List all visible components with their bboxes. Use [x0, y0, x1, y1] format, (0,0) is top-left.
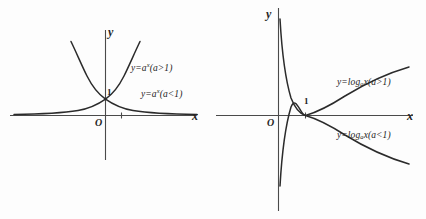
eq-function: log [348, 77, 360, 87]
y-axis-label: y [266, 8, 271, 20]
eq-condition: (a<1) [160, 89, 183, 99]
curve-label-logarithm-growth: y=logax(a>1) [337, 78, 391, 88]
y-intercept-tick-label: 1 [107, 88, 112, 97]
x-intercept-tick-label: 1 [304, 97, 309, 106]
origin-label: O [95, 118, 102, 128]
curve-label-exponential-decay: y=ax(a<1) [141, 88, 182, 100]
math-figure: y x 1 O y=ax(a>1) y=ax(a<1) y x 1 O [0, 0, 426, 219]
curve-exponential-decay [71, 42, 197, 115]
eq-prefix: y= [337, 77, 348, 87]
curve-label-logarithm-decay: y=logax(a<1) [337, 131, 391, 141]
eq-condition: (a>1) [368, 77, 391, 87]
exponential-plot-svg [0, 0, 213, 219]
y-axis-label: y [108, 26, 113, 38]
x-axis-label: x [407, 110, 413, 122]
eq-function: log [348, 130, 360, 140]
curve-exponential-growth [14, 42, 140, 115]
eq-condition: (a>1) [150, 63, 173, 73]
exponential-graph-panel: y x 1 O y=ax(a>1) y=ax(a<1) [0, 0, 213, 219]
logarithmic-plot-svg [213, 0, 426, 219]
logarithmic-graph-panel: y x 1 O y=logax(a>1) y=logax(a<1) [213, 0, 426, 219]
curve-label-exponential-growth: y=ax(a>1) [131, 62, 172, 74]
origin-label: O [267, 118, 274, 128]
eq-condition: (a<1) [368, 130, 391, 140]
curve-logarithm-growth [280, 19, 409, 164]
eq-prefix: y= [337, 130, 348, 140]
eq-prefix: y= [131, 63, 142, 73]
eq-prefix: y= [141, 89, 152, 99]
x-axis-label: x [192, 110, 198, 122]
